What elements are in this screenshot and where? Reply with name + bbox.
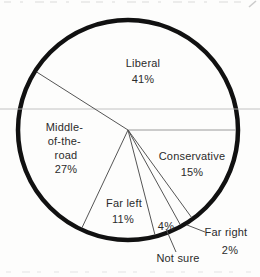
label-far-right: Far right [205, 226, 248, 238]
label-not-sure: Not sure [156, 252, 199, 264]
label-middle-line1: Middle- [46, 121, 84, 133]
label-far-left: Far left [106, 197, 142, 209]
label-conservative-pct: 15% [181, 166, 204, 178]
pie-chart-canvas: Liberal 41% Middle- of-the- road 27% Con… [0, 0, 260, 277]
label-far-right-pct: 2% [222, 244, 238, 256]
label-middle-line2: of-the- [48, 135, 81, 147]
label-liberal: Liberal [126, 57, 160, 69]
label-middle-line3: road [55, 149, 78, 161]
label-liberal-pct: 41% [132, 73, 155, 85]
pie-chart-figure: Liberal 41% Middle- of-the- road 27% Con… [0, 0, 260, 277]
leader-far-right [187, 225, 205, 232]
label-middle-pct: 27% [55, 163, 78, 175]
label-far-left-pct: 11% [112, 213, 134, 225]
label-not-sure-pct: 4% [158, 220, 174, 232]
scan-artifact-mark-top-right [249, 1, 256, 7]
label-conservative: Conservative [159, 150, 226, 162]
